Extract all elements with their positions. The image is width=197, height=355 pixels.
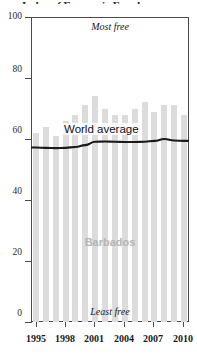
y-tick-label-40: 40	[0, 187, 22, 197]
y-tick-label-20: 20	[0, 248, 22, 258]
y-tick-label-100: 100	[0, 12, 22, 22]
world-average-line	[31, 17, 189, 322]
x-tick-mark-1995	[36, 322, 37, 327]
y-tick-label-80: 80	[0, 65, 22, 75]
y-tick-label-60: 60	[0, 126, 22, 136]
y-tick-mark-0	[25, 322, 32, 323]
chart-figure: Index of Economic Freedom 100 80 60 40 2…	[0, 0, 197, 355]
x-tick-label-2010: 2010	[163, 333, 197, 344]
y-tick-label-0: 0	[0, 309, 22, 319]
annotation-world-average: World average	[63, 123, 140, 135]
annotation-most-free: Most free	[31, 21, 189, 32]
plot-area	[31, 17, 189, 322]
x-tick-mark-1998	[65, 322, 66, 327]
annotation-country-barbados: Barbados	[31, 236, 189, 248]
annotation-least-free: Least free	[31, 306, 189, 317]
x-tick-mark-2004	[124, 322, 125, 327]
x-tick-mark-2007	[153, 322, 154, 327]
x-tick-mark-2010	[183, 322, 184, 327]
chart-title-partial: Index of Economic Freedom	[22, 0, 190, 4]
x-tick-mark-2001	[94, 322, 95, 327]
